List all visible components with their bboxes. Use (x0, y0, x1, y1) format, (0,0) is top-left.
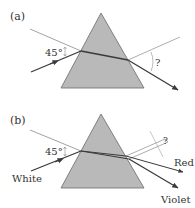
incident-arrow-a (50, 62, 56, 65)
white-light-label: White (12, 173, 42, 184)
violet-light-label: Violet (160, 194, 190, 205)
exit-angle-arc-a (151, 52, 153, 71)
exit-angle-label-b: ? (163, 136, 168, 146)
exit-angle-label-a: ? (155, 57, 160, 68)
exit-angle-arc-b (150, 131, 163, 157)
prism-b (61, 114, 144, 188)
panel-b: (b) 45° ? White Red Violet (10, 114, 194, 205)
panel-a: (a) 45° ? (10, 10, 180, 90)
panel-b-label: (b) (10, 114, 26, 127)
exit-normal-a (128, 37, 180, 60)
panel-a-label: (a) (10, 10, 25, 23)
prism-diagram: (a) 45° ? (b) (0, 0, 195, 208)
prism-a (61, 13, 144, 88)
exit-normal-red (126, 139, 165, 156)
incident-angle-label-b: 45° (45, 146, 63, 157)
incident-angle-label-a: 45° (45, 47, 63, 58)
red-light-label: Red (174, 157, 194, 168)
